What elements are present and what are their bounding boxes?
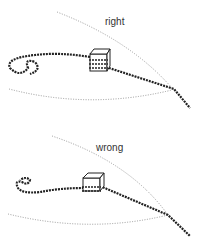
chain-right-diagram xyxy=(0,0,199,122)
chain-slack xyxy=(9,54,90,74)
label-wrong: wrong xyxy=(96,142,123,153)
arc-guide-line xyxy=(8,214,168,224)
chain-taut xyxy=(106,67,190,108)
arc-guide-line xyxy=(9,89,172,100)
anchor-box xyxy=(82,173,104,191)
chain-taut xyxy=(100,186,190,236)
panel-wrong: wrong xyxy=(0,122,199,245)
panel-right: right xyxy=(0,0,199,122)
chain-wrong-diagram xyxy=(0,122,199,245)
chain-slack xyxy=(17,178,84,193)
anchor-box xyxy=(89,49,110,71)
label-right: right xyxy=(105,16,124,27)
